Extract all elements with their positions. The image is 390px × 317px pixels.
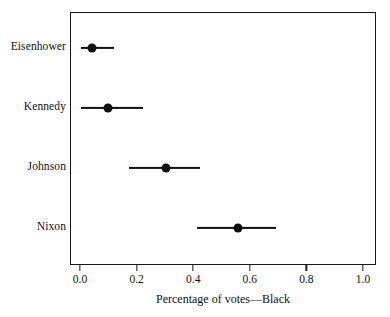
data-point-johnson [161,164,170,173]
dot-plot-figure: EisenhowerKennedyJohnsonNixon 0.00.20.40… [0,0,390,317]
x-tick-2 [193,265,194,271]
category-label-eisenhower: Eisenhower [2,41,66,53]
category-axis-labels: EisenhowerKennedyJohnsonNixon [0,0,66,317]
x-tick-4 [306,265,307,271]
x-tick-label-2: 0.4 [186,274,200,286]
x-tick-label-4: 0.8 [299,274,313,286]
category-label-nixon: Nixon [2,221,66,233]
x-tick-5 [362,265,363,271]
x-tick-label-3: 0.6 [243,274,257,286]
plot-area-frame [70,12,376,265]
data-point-eisenhower [88,44,97,53]
x-tick-1 [136,265,137,271]
data-point-kennedy [103,104,112,113]
x-tick-label-0: 0.0 [73,274,87,286]
category-label-kennedy: Kennedy [2,101,66,113]
x-tick-label-1: 0.2 [129,274,143,286]
x-tick-label-5: 1.0 [356,274,370,286]
x-tick-3 [249,265,250,271]
x-axis-title: Percentage of votes—Black [70,293,376,305]
data-point-nixon [234,224,243,233]
interval-line-eisenhower [81,47,114,49]
x-tick-0 [79,265,80,271]
category-label-johnson: Johnson [2,161,66,173]
